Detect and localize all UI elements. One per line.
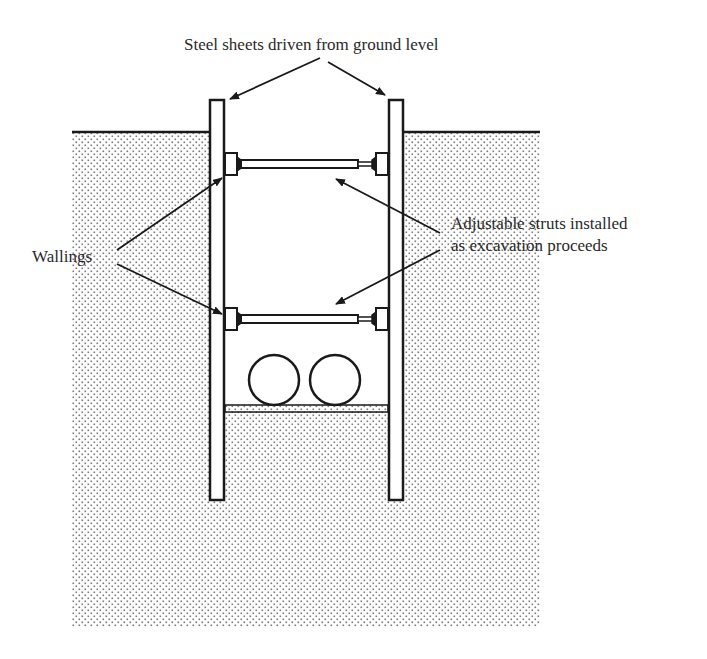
label-struts-line2: as excavation proceeds	[451, 236, 608, 256]
soil	[72, 133, 540, 627]
pipe-right	[310, 355, 360, 405]
label-struts-line1: Adjustable struts installed	[451, 214, 628, 234]
pipe-left	[249, 355, 299, 405]
label-wallings: Wallings	[32, 247, 92, 267]
right-steel-sheet	[389, 100, 403, 500]
left-steel-sheet	[210, 100, 224, 500]
pipe-bedding	[225, 405, 388, 412]
trench-diagram	[0, 0, 707, 659]
label-steel-sheets: Steel sheets driven from ground level	[184, 35, 438, 55]
